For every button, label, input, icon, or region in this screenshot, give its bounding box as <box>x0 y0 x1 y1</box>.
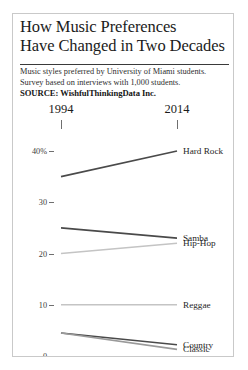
slope-chart: 1994201440%3020100Hard RockSambaHip-HopR… <box>13 14 234 357</box>
y-axis-label-30: 30 <box>17 198 47 207</box>
x-axis-label-2014: 2014 <box>165 102 190 117</box>
y-axis-label-0: 0 <box>17 352 47 358</box>
y-axis-label-10: 10 <box>17 300 47 309</box>
y-axis-tick-20 <box>49 254 54 255</box>
series-line-hard-rock <box>61 151 177 177</box>
series-label-classic: Classic <box>183 344 210 354</box>
series-line-samba <box>61 228 177 238</box>
y-axis-label-40: 40% <box>17 147 47 156</box>
chart-card: How Music Preferences Have Changed in Tw… <box>12 13 234 357</box>
x-axis-tick-1994 <box>61 120 62 129</box>
series-label-hard-rock: Hard Rock <box>183 146 223 156</box>
y-axis-tick-0 <box>49 356 54 357</box>
y-axis-tick-40 <box>49 151 54 152</box>
x-axis-tick-2014 <box>177 120 178 129</box>
series-label-hip-hop: Hip-Hop <box>183 238 216 248</box>
series-line-classic <box>61 333 177 349</box>
series-line-hip-hop <box>61 243 177 253</box>
x-axis-label-1994: 1994 <box>49 102 74 117</box>
y-axis-label-20: 20 <box>17 249 47 258</box>
y-axis-tick-30 <box>49 202 54 203</box>
series-label-reggae: Reggae <box>183 300 211 310</box>
y-axis-tick-10 <box>49 305 54 306</box>
